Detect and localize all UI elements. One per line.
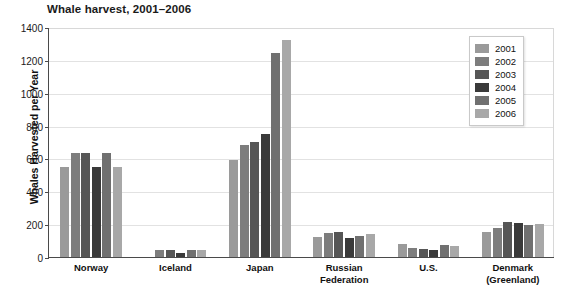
bars [49, 28, 133, 257]
bar [187, 250, 196, 257]
y-tick-label: 1000 [21, 88, 43, 99]
bar [398, 244, 407, 257]
x-axis-category-label: Japan [246, 262, 273, 274]
chart-title: Whale harvest, 2001–2006 [47, 3, 191, 15]
bar-group: U.S. [386, 28, 470, 257]
bar [81, 153, 90, 257]
y-tick-label: 0 [37, 253, 43, 264]
legend-label: 2003 [495, 70, 516, 80]
y-tick-mark [45, 258, 49, 259]
bar [166, 250, 175, 257]
bars [218, 28, 302, 257]
legend-item: 2006 [475, 107, 516, 120]
bar [419, 249, 428, 257]
legend-swatch [475, 96, 489, 105]
x-axis-category-label: Norway [74, 262, 108, 274]
bar [197, 250, 206, 257]
legend-label: 2006 [495, 109, 516, 119]
bars [386, 28, 470, 257]
bar [355, 236, 364, 257]
bar [313, 237, 322, 257]
bar [524, 225, 533, 257]
bar [176, 253, 185, 257]
bar-group: Japan [218, 28, 302, 257]
legend-swatch [475, 44, 489, 53]
legend-swatch [475, 109, 489, 118]
legend-item: 2005 [475, 94, 516, 107]
bar [366, 234, 375, 257]
bar [535, 224, 544, 257]
y-tick-label: 400 [26, 187, 43, 198]
bar [113, 167, 122, 257]
bar [408, 248, 417, 257]
x-axis-category-label: U.S. [419, 262, 437, 274]
bar-group: Iceland [133, 28, 217, 257]
bar-group: RussianFederation [302, 28, 386, 257]
legend-label: 2001 [495, 44, 516, 54]
bar [261, 134, 270, 257]
legend-label: 2004 [495, 83, 516, 93]
bar [503, 222, 512, 257]
y-tick-label: 200 [26, 220, 43, 231]
bar [250, 142, 259, 257]
legend-item: 2004 [475, 81, 516, 94]
bar [324, 233, 333, 257]
bar [271, 53, 280, 257]
y-tick-label: 800 [26, 121, 43, 132]
bar [282, 40, 291, 257]
bar [493, 228, 502, 257]
legend-item: 2003 [475, 68, 516, 81]
bar [482, 232, 491, 257]
bar [429, 250, 438, 257]
bar-group: Norway [49, 28, 133, 257]
legend-item: 2002 [475, 55, 516, 68]
x-axis-category-label: Denmark(Greenland) [486, 262, 539, 286]
legend-item: 2001 [475, 42, 516, 55]
bar [334, 232, 343, 257]
bar [229, 160, 238, 257]
bar [102, 153, 111, 257]
bar [440, 245, 449, 257]
bar [92, 167, 101, 257]
legend-label: 2002 [495, 57, 516, 67]
legend-swatch [475, 83, 489, 92]
bar [345, 238, 354, 257]
bars [133, 28, 217, 257]
bar [155, 250, 164, 257]
bar [240, 145, 249, 257]
legend: 200120022003200420052006 [469, 36, 524, 126]
y-tick-label: 600 [26, 154, 43, 165]
x-axis-category-label: Iceland [159, 262, 192, 274]
y-axis-label: Whales Harvested per Year [28, 42, 40, 232]
bars [302, 28, 386, 257]
whale-harvest-bar-chart: Whale harvest, 2001–2006 Whales Harveste… [0, 0, 564, 289]
legend-swatch [475, 70, 489, 79]
bar [60, 167, 69, 257]
y-tick-label: 1200 [21, 55, 43, 66]
y-tick-label: 1400 [21, 23, 43, 34]
legend-label: 2005 [495, 96, 516, 106]
x-axis-category-label: RussianFederation [320, 262, 369, 286]
legend-swatch [475, 57, 489, 66]
bar [71, 153, 80, 257]
bar [514, 223, 523, 258]
bar [450, 246, 459, 258]
